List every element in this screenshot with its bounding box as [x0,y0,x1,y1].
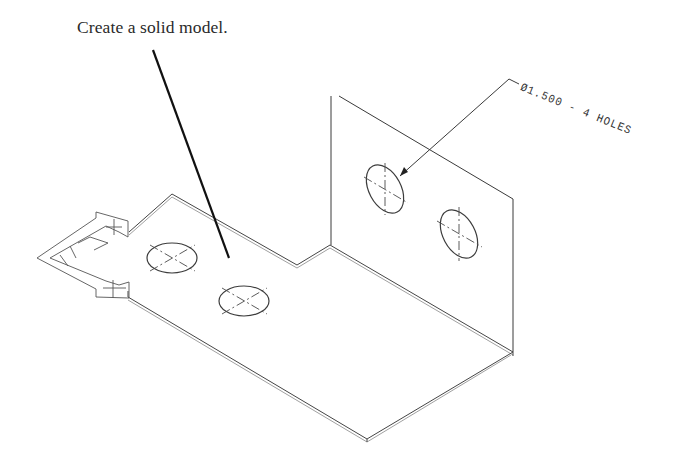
drawing-canvas: Create a solid model. Ø1.500 - 4 HOLES [0,0,681,464]
flange-hole-1 [359,159,412,220]
flange-hole-2 [433,204,486,265]
hole-callout-leader [400,79,519,176]
base-hole-2 [219,286,269,316]
isometric-drawing [0,0,681,464]
instruction-text: Create a solid model. [77,17,228,38]
vertical-flange [331,96,513,352]
ucs-axis-icon [37,212,129,298]
base-hole-1 [147,243,197,273]
instruction-pointer-line [153,50,229,258]
